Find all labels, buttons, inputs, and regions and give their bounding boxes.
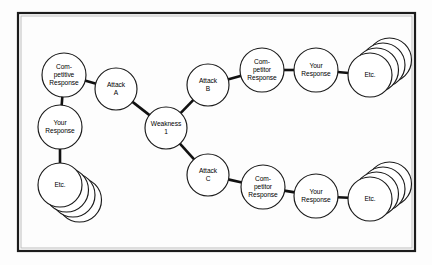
edge-your-top-to-etc xyxy=(337,72,348,73)
node-attack-c[interactable]: AttackC xyxy=(187,154,229,196)
node-label-etc-bottom: Etc. xyxy=(364,195,375,202)
node-label-your-response-left: Your xyxy=(53,119,67,126)
node-etc-bottom[interactable]: Etc. xyxy=(348,177,392,221)
node-etc-left[interactable]: Etc. xyxy=(38,163,82,207)
diagram-canvas: Com-petitiveResponseYourResponseEtc.Atta… xyxy=(0,0,432,265)
edge-competitive-to-your-response xyxy=(62,96,63,105)
node-label-attack-c: C xyxy=(206,175,211,182)
node-label-your-response-bottom: Response xyxy=(301,196,331,204)
edge-competitive-to-attack-a xyxy=(85,81,96,84)
node-label-weakness-1: Weakness xyxy=(151,120,182,127)
node-label-competitive-response: Com- xyxy=(56,63,72,70)
node-label-attack-a: A xyxy=(114,89,119,96)
node-label-your-response-left: Response xyxy=(45,127,75,135)
node-label-your-response-top: Response xyxy=(301,70,331,78)
node-label-attack-c: Attack xyxy=(199,167,218,174)
node-attack-b[interactable]: AttackB xyxy=(187,64,229,106)
node-competitive-response[interactable]: Com-petitiveResponse xyxy=(42,53,86,97)
node-label-your-response-bottom: Your xyxy=(309,188,323,195)
node-label-competitor-response-bottom: Com- xyxy=(255,175,271,182)
edge-attack-c-to-competitor xyxy=(228,179,242,182)
node-label-competitive-response: petitive xyxy=(54,71,75,79)
edge-weakness-to-attack-b xyxy=(180,100,193,114)
edge-weakness-to-attack-c xyxy=(180,143,195,159)
node-label-competitor-response-top: Com- xyxy=(254,58,270,65)
node-your-response-bottom[interactable]: YourResponse xyxy=(294,174,338,218)
node-competitor-response-bottom[interactable]: Com-petitorResponse xyxy=(241,165,285,209)
node-your-response-left[interactable]: YourResponse xyxy=(38,105,82,149)
node-label-competitor-response-bottom: Response xyxy=(248,191,278,199)
node-label-your-response-top: Your xyxy=(309,62,323,69)
node-label-competitor-response-top: petitor xyxy=(253,66,272,74)
edge-your-bottom-to-etc xyxy=(337,197,348,198)
node-label-attack-b: B xyxy=(206,85,211,92)
node-label-weakness-1: 1 xyxy=(164,128,168,135)
node-etc-top[interactable]: Etc. xyxy=(348,53,392,97)
node-your-response-top[interactable]: YourResponse xyxy=(294,48,338,92)
node-competitor-response-top[interactable]: Com-petitorResponse xyxy=(240,48,284,92)
node-label-attack-a: Attack xyxy=(107,81,126,88)
node-weakness-1[interactable]: Weakness1 xyxy=(145,107,187,149)
edge-attack-a-to-weakness xyxy=(132,102,150,116)
node-label-competitor-response-top: Response xyxy=(247,74,277,82)
node-label-etc-left: Etc. xyxy=(54,181,65,188)
node-label-competitor-response-bottom: petitor xyxy=(254,183,273,191)
node-attack-a[interactable]: AttackA xyxy=(95,68,137,110)
node-label-attack-b: Attack xyxy=(199,77,218,84)
edge-competitor-to-your-bottom xyxy=(284,191,295,193)
edge-attack-b-to-competitor xyxy=(228,76,242,80)
attack-tree-diagram: Com-petitiveResponseYourResponseEtc.Atta… xyxy=(0,0,432,265)
node-label-etc-top: Etc. xyxy=(364,71,375,78)
node-label-competitive-response: Response xyxy=(49,79,79,87)
